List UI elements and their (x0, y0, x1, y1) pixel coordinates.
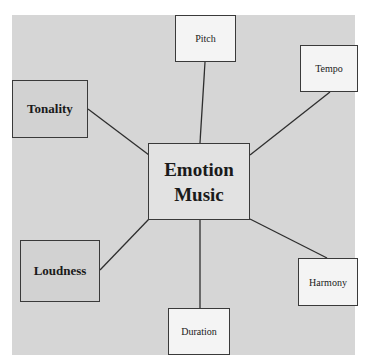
connector-tempo (250, 92, 330, 155)
connector-harmony (250, 219, 327, 258)
node-loudness-label: Loudness (34, 263, 87, 279)
connector-tonality (88, 109, 149, 155)
node-emotion-music: Emotion Music (148, 143, 250, 220)
node-harmony-label: Harmony (309, 277, 347, 288)
node-pitch: Pitch (175, 15, 236, 62)
node-duration: Duration (168, 308, 230, 355)
center-label-line1: Emotion (164, 157, 234, 182)
node-tempo: Tempo (300, 45, 358, 92)
node-harmony: Harmony (298, 258, 358, 306)
connector-pitch (200, 62, 205, 143)
center-label-line2: Music (174, 182, 224, 207)
node-duration-label: Duration (181, 326, 217, 337)
node-tempo-label: Tempo (315, 63, 343, 74)
node-tonality-label: Tonality (27, 101, 73, 117)
node-tonality: Tonality (12, 80, 88, 138)
node-loudness: Loudness (20, 240, 100, 302)
connector-loudness (100, 219, 149, 270)
node-pitch-label: Pitch (195, 33, 216, 44)
